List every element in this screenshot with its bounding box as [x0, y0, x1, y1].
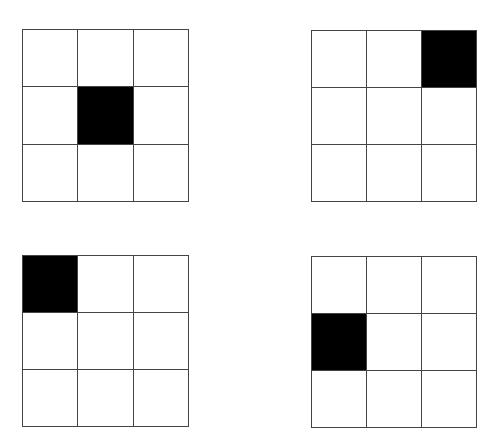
empty-cell: [422, 257, 477, 314]
empty-cell: [134, 370, 189, 427]
empty-cell: [78, 145, 133, 202]
empty-cell: [367, 257, 422, 314]
empty-cell: [312, 257, 367, 314]
empty-cell: [23, 30, 78, 87]
empty-cell: [134, 313, 189, 370]
empty-cell: [312, 31, 367, 88]
empty-cell: [367, 145, 422, 202]
empty-cell: [312, 88, 367, 145]
empty-cell: [23, 145, 78, 202]
grid-bottom-right: [311, 256, 477, 428]
empty-cell: [422, 314, 477, 371]
empty-cell: [78, 370, 133, 427]
empty-cell: [23, 87, 78, 144]
filled-cell: [422, 31, 477, 88]
empty-cell: [134, 256, 189, 313]
empty-cell: [134, 87, 189, 144]
empty-cell: [312, 371, 367, 428]
empty-cell: [312, 145, 367, 202]
empty-cell: [23, 370, 78, 427]
filled-cell: [312, 314, 367, 371]
empty-cell: [367, 371, 422, 428]
empty-cell: [78, 256, 133, 313]
grid-top-left: [22, 29, 189, 202]
empty-cell: [134, 30, 189, 87]
filled-cell: [78, 87, 133, 144]
empty-cell: [367, 31, 422, 88]
empty-cell: [422, 88, 477, 145]
empty-cell: [78, 30, 133, 87]
grid-top-right: [311, 30, 477, 202]
empty-cell: [422, 371, 477, 428]
grid-bottom-left: [22, 255, 189, 427]
empty-cell: [134, 145, 189, 202]
empty-cell: [78, 313, 133, 370]
empty-cell: [367, 88, 422, 145]
empty-cell: [367, 314, 422, 371]
empty-cell: [422, 145, 477, 202]
filled-cell: [23, 256, 78, 313]
empty-cell: [23, 313, 78, 370]
